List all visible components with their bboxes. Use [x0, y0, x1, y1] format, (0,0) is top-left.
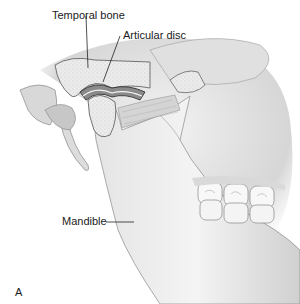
molar-teeth — [198, 182, 274, 223]
condyle-section — [88, 95, 116, 136]
panel-letter: A — [15, 286, 22, 298]
label-temporal-bone: Temporal bone — [52, 10, 125, 21]
ear-canal — [45, 104, 76, 130]
label-mandible: Mandible — [62, 216, 107, 227]
label-articular-disc: Articular disc — [123, 30, 186, 41]
tmj-illustration — [0, 0, 300, 304]
